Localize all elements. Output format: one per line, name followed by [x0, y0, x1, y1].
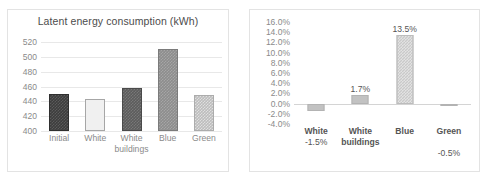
bar	[194, 95, 214, 131]
bar-slot	[113, 42, 149, 131]
relative-change-category-labels: White-1.5%White buildingsBlueGreen-0.5%	[294, 126, 471, 159]
bar-slot	[77, 42, 113, 131]
y-axis-tick-label: 4.0%	[271, 78, 290, 88]
bar-slot	[150, 42, 186, 131]
y-axis-tick-label: 14.0%	[266, 27, 290, 37]
y-axis-tick-label: 520	[23, 37, 37, 47]
y-axis-tick-label: 0.0%	[271, 99, 290, 109]
x-axis-category-label: Blue	[383, 126, 427, 137]
bar-slot	[294, 22, 338, 124]
y-axis-tick-label: 460	[23, 82, 37, 92]
latent-energy-category-labels: InitialWhiteWhite buildingsBlueGreen	[41, 133, 222, 155]
bar	[308, 104, 325, 112]
y-axis-tick-label: 500	[23, 52, 37, 62]
bar-data-label: -0.5%	[427, 148, 471, 159]
x-axis-category-label: White buildings	[113, 133, 149, 155]
x-axis-category-label: Initial	[41, 133, 77, 155]
latent-energy-chart-panel: Latent energy consumption (kWh) 40042044…	[7, 9, 229, 172]
bar-data-label: 13.5%	[392, 24, 416, 34]
x-axis-category-label: White	[294, 126, 338, 137]
bar-data-label: 1.7%	[351, 84, 371, 94]
bar	[352, 95, 369, 104]
category-label-group: Blue	[383, 126, 427, 159]
x-axis-category-label: Green	[186, 133, 222, 155]
bar	[158, 49, 178, 131]
latent-energy-bar-series	[41, 42, 222, 131]
bar-slot	[41, 42, 77, 131]
latent-energy-plot-area: 400420440460480500520	[41, 42, 222, 131]
x-axis-category-label: White	[77, 133, 113, 155]
y-axis-tick-label: 10.0%	[266, 48, 290, 58]
bar	[122, 88, 142, 131]
gridline	[41, 131, 222, 132]
relative-change-chart-panel: 16.0%14.0%12.0%10.0%8.0%6.0%4.0%2.0%0.0%…	[249, 9, 480, 172]
bar	[396, 35, 413, 104]
y-axis-tick-label: 6.0%	[271, 68, 290, 78]
y-axis-tick-label: -2.0%	[268, 109, 290, 119]
latent-energy-chart-title: Latent energy consumption (kWh)	[8, 15, 228, 27]
bar-data-label: -1.5%	[294, 137, 338, 148]
y-axis-tick-label: 400	[23, 126, 37, 136]
relative-change-plot-area: 16.0%14.0%12.0%10.0%8.0%6.0%4.0%2.0%0.0%…	[294, 22, 471, 124]
y-axis-tick-label: 440	[23, 96, 37, 106]
y-axis-tick-label: 420	[23, 111, 37, 121]
y-axis-tick-label: 16.0%	[266, 17, 290, 27]
category-label-group: White buildings	[338, 126, 382, 159]
bar-slot: 13.5%	[383, 22, 427, 124]
y-axis-tick-label: -4.0%	[268, 119, 290, 129]
bar-slot	[186, 42, 222, 131]
relative-change-bar-series: 1.7%13.5%	[294, 22, 471, 124]
y-axis-tick-label: 8.0%	[271, 58, 290, 68]
bar	[440, 104, 457, 107]
screenshot-root: Latent energy consumption (kWh) 40042044…	[0, 0, 487, 184]
bar	[85, 99, 105, 131]
x-axis-category-label: Blue	[150, 133, 186, 155]
category-label-group: White-1.5%	[294, 126, 338, 159]
y-axis-tick-label: 2.0%	[271, 88, 290, 98]
category-label-group: Green-0.5%	[427, 126, 471, 159]
bar-slot	[427, 22, 471, 124]
x-axis-category-label: White buildings	[338, 126, 382, 148]
bar-slot: 1.7%	[338, 22, 382, 124]
y-axis-tick-label: 12.0%	[266, 37, 290, 47]
x-axis-category-label: Green	[427, 126, 471, 137]
y-axis-tick-label: 480	[23, 67, 37, 77]
bar	[49, 94, 69, 131]
